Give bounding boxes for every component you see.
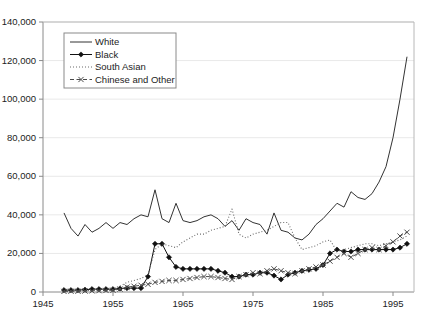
series-chinese-and-other xyxy=(61,230,409,294)
legend-label-black: Black xyxy=(95,49,118,60)
x-tick-label: 1975 xyxy=(228,298,278,309)
y-tick-label: 100,000 xyxy=(0,93,36,104)
x-tick-label: 1945 xyxy=(18,298,68,309)
y-tick-label: 80,000 xyxy=(0,132,36,143)
chart-legend: WhiteBlackSouth AsianChinese and Other xyxy=(64,33,176,88)
y-tick-label: 40,000 xyxy=(0,209,36,220)
line-chart: WhiteBlackSouth AsianChinese and Other xyxy=(0,0,425,320)
y-tick-label: 140,000 xyxy=(0,16,36,27)
series-layer xyxy=(61,57,409,294)
y-tick-label: 20,000 xyxy=(0,247,36,258)
series-black xyxy=(61,241,409,292)
x-tick-label: 1995 xyxy=(368,298,418,309)
chart-container: WhiteBlackSouth AsianChinese and Other 0… xyxy=(0,0,425,320)
y-tick-label: 120,000 xyxy=(0,55,36,66)
x-tick-label: 1965 xyxy=(158,298,208,309)
y-tick-label: 60,000 xyxy=(0,170,36,181)
legend-label-chinese-and-other: Chinese and Other xyxy=(95,74,175,85)
y-tick-label: 0 xyxy=(0,286,36,297)
x-tick-label: 1985 xyxy=(298,298,348,309)
x-tick-label: 1955 xyxy=(88,298,138,309)
legend-label-south-asian: South Asian xyxy=(95,61,146,72)
legend-label-white: White xyxy=(95,36,119,47)
